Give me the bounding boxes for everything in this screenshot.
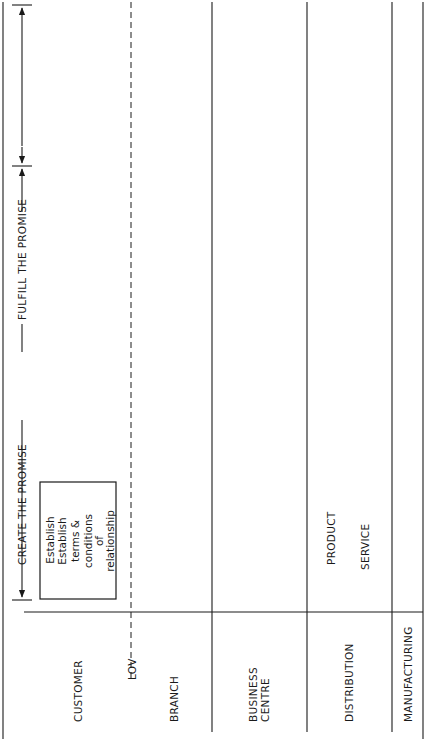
process-diagram: FULFILL THE PROMISE CREATE THE PROMISE C… (0, 0, 431, 739)
svg-text:relationship: relationship (104, 510, 116, 572)
lane-service: SERVICE (359, 524, 371, 570)
phase-label-create: CREATE THE PROMISE (16, 444, 28, 565)
lane-business-centre-1: BUSINESS (247, 667, 259, 722)
lane-business-centre-2: CENTRE (259, 678, 271, 722)
lane-distribution: DISTRIBUTION (343, 643, 355, 722)
lane-manufacturing: MANUFACTURING (402, 626, 414, 722)
lane-product: PRODUCT (325, 511, 337, 565)
customer-activities: Establish Establish terms & conditions o… (40, 482, 116, 599)
lane-grid (3, 2, 423, 739)
phase-label-fulfill: FULFILL THE PROMISE (16, 199, 28, 320)
lane-branch: BRANCH (168, 676, 180, 722)
phase-indicator: FULFILL THE PROMISE CREATE THE PROMISE (12, 5, 32, 600)
lane-customer: CUSTOMER (72, 660, 84, 722)
svg-text:Establish: Establish (56, 517, 68, 564)
svg-text:Establish: Establish (44, 516, 56, 563)
svg-text:terms &: terms & (69, 520, 81, 562)
lane-headers: CUSTOMER LOV BRANCH BUSINESS CENTRE DIST… (72, 511, 414, 722)
lane-lov: LOV (126, 658, 138, 680)
